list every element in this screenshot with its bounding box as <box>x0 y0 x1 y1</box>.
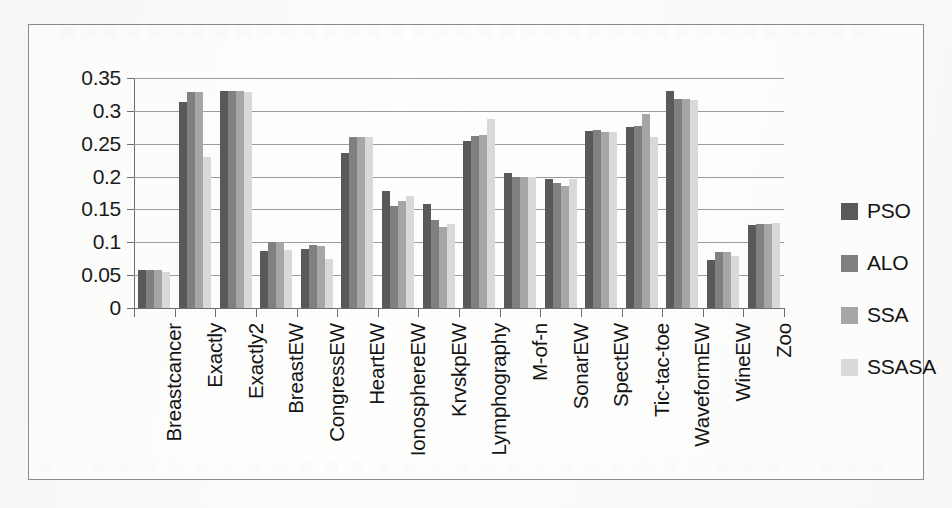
bar-pso-heartew[interactable] <box>341 153 349 308</box>
y-axis-tick-label: 0.35 <box>81 66 121 90</box>
legend-item-pso[interactable]: PSO <box>841 185 941 237</box>
bar-alo-breastcancer[interactable] <box>146 270 154 308</box>
bar-pso-spectew[interactable] <box>585 131 593 308</box>
bar-pso-m-of-n[interactable] <box>504 173 512 308</box>
x-axis-tick <box>175 308 176 317</box>
x-axis-label-exactly: Exactly <box>203 323 227 388</box>
bar-alo-krvskpew[interactable] <box>431 220 439 308</box>
bar-ssasa-breastew[interactable] <box>284 250 292 308</box>
x-axis-tick <box>337 308 338 317</box>
legend-item-ssa[interactable]: SSA <box>841 289 941 341</box>
bar-ssa-tic-tac-toe[interactable] <box>642 114 650 308</box>
x-axis-tick <box>134 308 135 317</box>
bar-ssasa-congressew[interactable] <box>325 259 333 308</box>
bar-ssasa-krvskpew[interactable] <box>447 224 455 308</box>
bar-ssa-heartew[interactable] <box>357 137 365 309</box>
bar-pso-zoo[interactable] <box>748 225 756 308</box>
bar-pso-breastew[interactable] <box>260 251 268 308</box>
bar-ssasa-breastcancer[interactable] <box>162 272 170 308</box>
y-axis-tick-label: 0.25 <box>81 132 121 156</box>
bar-ssa-zoo[interactable] <box>764 224 772 308</box>
x-axis-tick <box>378 308 379 317</box>
bar-ssasa-ionosphereew[interactable] <box>406 196 414 308</box>
bar-ssasa-waveformew[interactable] <box>690 100 698 308</box>
bar-alo-m-of-n[interactable] <box>512 177 520 308</box>
legend-swatch-icon <box>841 307 858 324</box>
x-axis-tick <box>215 308 216 317</box>
x-axis-label-lymphography: Lymphography <box>487 323 511 455</box>
x-axis-label-m-of-n: M-of-n <box>528 323 552 381</box>
bar-alo-tic-tac-toe[interactable] <box>634 126 642 308</box>
bar-pso-krvskpew[interactable] <box>423 204 431 308</box>
bar-pso-lymphography[interactable] <box>463 141 471 308</box>
bar-pso-exactly2[interactable] <box>220 91 228 308</box>
bar-group <box>337 78 378 308</box>
bar-alo-waveformew[interactable] <box>674 99 682 308</box>
bar-alo-exactly[interactable] <box>187 92 195 308</box>
bar-group <box>378 78 419 308</box>
bar-group <box>540 78 581 308</box>
x-axis-label-exactly2: Exactly2 <box>244 323 268 399</box>
bar-pso-tic-tac-toe[interactable] <box>626 127 634 308</box>
bar-pso-ionosphereew[interactable] <box>382 191 390 308</box>
bar-alo-breastew[interactable] <box>268 242 276 308</box>
bar-ssa-breastcancer[interactable] <box>154 270 162 308</box>
bar-alo-ionosphereew[interactable] <box>390 206 398 308</box>
bar-ssasa-tic-tac-toe[interactable] <box>650 137 658 308</box>
legend-swatch-icon <box>841 255 858 272</box>
bar-alo-sonarew[interactable] <box>553 183 561 308</box>
bar-pso-wineew[interactable] <box>707 260 715 308</box>
y-axis-labels: 00.050.10.150.20.250.30.35 <box>47 78 121 308</box>
bar-alo-wineew[interactable] <box>715 252 723 309</box>
x-axis-label-sonarew: SonarEW <box>569 323 593 409</box>
bar-ssa-exactly2[interactable] <box>236 91 244 308</box>
bar-alo-congressew[interactable] <box>309 245 317 308</box>
bar-group <box>256 78 297 308</box>
x-axis-label-breastew: BreastEW <box>284 323 308 414</box>
bar-pso-sonarew[interactable] <box>545 179 553 308</box>
legend-label: SSASA <box>867 355 936 379</box>
bar-ssasa-exactly2[interactable] <box>244 92 252 308</box>
bar-alo-heartew[interactable] <box>349 137 357 309</box>
bar-ssasa-lymphography[interactable] <box>487 119 495 308</box>
legend-swatch-icon <box>841 359 858 376</box>
bar-ssasa-m-of-n[interactable] <box>528 177 536 308</box>
bar-pso-breastcancer[interactable] <box>138 270 146 308</box>
legend-item-alo[interactable]: ALO <box>841 237 941 289</box>
bar-alo-lymphography[interactable] <box>471 136 479 308</box>
bar-alo-spectew[interactable] <box>593 130 601 308</box>
x-axis-label-breastcancer: Breastcancer <box>162 323 186 441</box>
y-axis-tick-label: 0 <box>110 296 121 320</box>
bar-ssasa-exactly[interactable] <box>203 157 211 308</box>
bar-group <box>662 78 703 308</box>
bar-ssasa-wineew[interactable] <box>731 256 739 308</box>
bar-ssa-wineew[interactable] <box>723 252 731 308</box>
x-axis-label-wineew: WineEW <box>731 323 755 402</box>
bar-ssa-lymphography[interactable] <box>479 135 487 308</box>
bar-pso-congressew[interactable] <box>301 249 309 308</box>
bar-pso-waveformew[interactable] <box>666 91 674 309</box>
bar-ssa-exactly[interactable] <box>195 92 203 308</box>
x-axis-tick <box>662 308 663 317</box>
x-axis-label-spectew: SpectEW <box>609 323 633 407</box>
bar-ssa-spectew[interactable] <box>601 132 609 308</box>
bar-ssa-breastew[interactable] <box>276 242 284 308</box>
bar-ssa-krvskpew[interactable] <box>439 227 447 308</box>
bar-ssasa-sonarew[interactable] <box>569 179 577 308</box>
bar-ssa-waveformew[interactable] <box>682 99 690 308</box>
bar-pso-exactly[interactable] <box>179 102 187 308</box>
bar-ssa-m-of-n[interactable] <box>520 177 528 308</box>
bar-alo-zoo[interactable] <box>756 224 764 308</box>
bar-ssa-congressew[interactable] <box>317 246 325 308</box>
bar-ssasa-zoo[interactable] <box>772 223 780 308</box>
bar-ssasa-spectew[interactable] <box>609 132 617 308</box>
bar-ssa-sonarew[interactable] <box>561 186 569 308</box>
bar-group <box>622 78 663 308</box>
bar-group <box>175 78 216 308</box>
legend-item-ssasa[interactable]: SSASA <box>841 341 941 393</box>
bar-alo-exactly2[interactable] <box>228 91 236 309</box>
x-axis-tick <box>500 308 501 317</box>
bar-ssasa-heartew[interactable] <box>365 137 373 308</box>
bar-ssa-ionosphereew[interactable] <box>398 201 406 308</box>
x-axis-tick <box>622 308 623 317</box>
